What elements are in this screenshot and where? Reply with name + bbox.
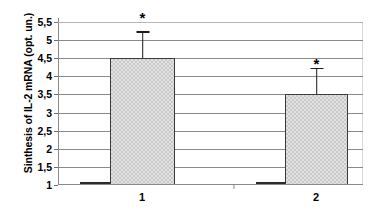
y-tickmark-2	[54, 149, 58, 150]
y-tick-label-1: 1	[24, 179, 52, 191]
bar-group-2	[285, 94, 348, 185]
x-axis-group-separator	[234, 185, 235, 189]
y-tickmark-4	[54, 76, 58, 77]
y-tickmark-5-5	[54, 22, 58, 23]
significance-asterisk-group-2: *	[314, 56, 320, 71]
x-axis-line	[58, 184, 363, 185]
y-tick-label-3: 3	[24, 107, 52, 119]
y-tick-label-2-5: 2,5	[24, 125, 52, 137]
error-bar-stem-group-1	[142, 33, 144, 58]
y-tickmark-2-5	[54, 131, 58, 132]
error-bar-stem-group-2	[316, 69, 318, 94]
y-tickmark-3-5	[54, 94, 58, 95]
x-tick-label-2: 2	[313, 191, 319, 203]
error-bar-cap-group-1	[136, 31, 149, 33]
y-tickmark-3	[54, 113, 58, 114]
gridline-5-5	[58, 22, 363, 23]
y-tick-label-2: 2	[24, 143, 52, 155]
gridline-5	[58, 40, 363, 41]
y-tickmark-1-5	[54, 167, 58, 168]
y-tick-label-3-5: 3,5	[24, 88, 52, 100]
y-tick-label-4: 4	[24, 70, 52, 82]
plot-area	[58, 22, 363, 185]
y-axis-line	[58, 18, 59, 185]
bar-chart: Sinthesis of IL-2 mRNA (opt. un.) 5,5 5 …	[0, 0, 376, 211]
bar-group-1	[110, 58, 175, 185]
y-tick-label-1-5: 1,5	[24, 161, 52, 173]
y-tickmark-1	[54, 185, 58, 186]
y-tickmark-4-5	[54, 58, 58, 59]
plot-right-border	[362, 22, 363, 185]
y-tick-label-5: 5	[24, 34, 52, 46]
y-axis-tick-labels: 5,5 5 4,5 4 3,5 3 2,5 2 1,5 1	[24, 22, 52, 185]
y-tickmark-5	[54, 40, 58, 41]
y-tick-label-4-5: 4,5	[24, 52, 52, 64]
significance-asterisk-group-1: *	[140, 10, 146, 25]
y-tick-label-5-5: 5,5	[24, 16, 52, 28]
x-tick-label-1: 1	[139, 191, 145, 203]
